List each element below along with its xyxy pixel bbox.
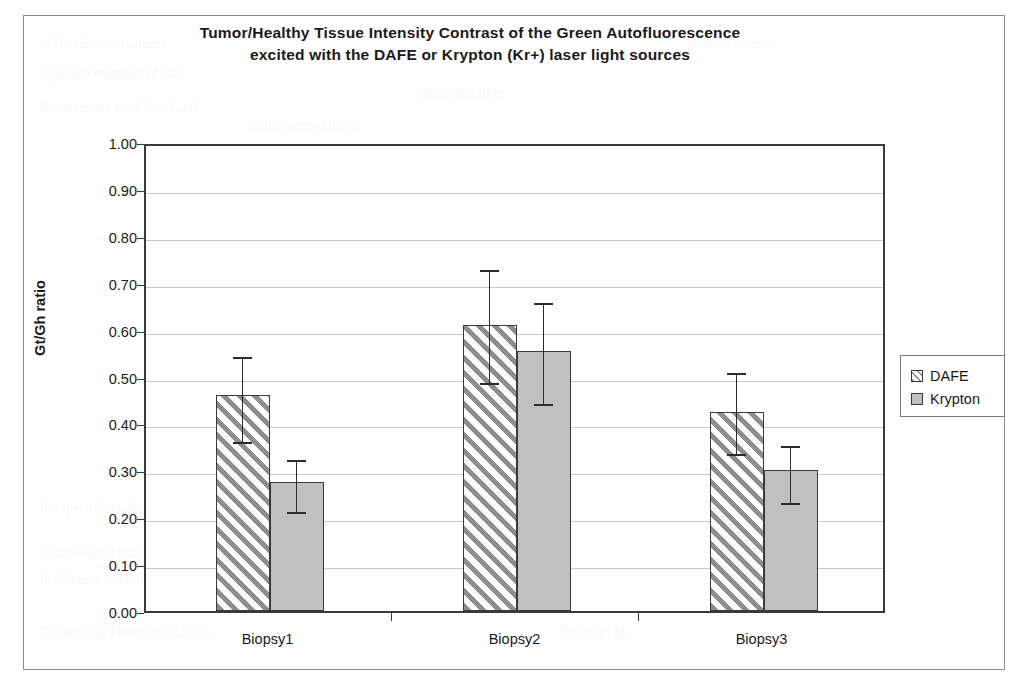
error-bar-cap-bottom [534, 404, 553, 406]
y-axis-tick-mark [137, 519, 144, 520]
x-axis-tick-mark [638, 613, 639, 621]
y-axis-tick-mark [137, 566, 144, 567]
chart-legend: DAFEKrypton [900, 355, 1005, 417]
error-bar-cap-bottom [727, 454, 746, 456]
y-axis-tick-label: 0.10 [75, 558, 137, 574]
x-axis-tick-label: Biopsy1 [242, 631, 294, 647]
error-bar-krypton-biopsy3 [764, 446, 818, 505]
error-bar-cap-bottom [781, 503, 800, 505]
gridline [146, 193, 883, 194]
y-axis-tick-mark [137, 191, 144, 192]
chart-title: Tumor/Healthy Tissue Intensity Contrast … [120, 22, 820, 67]
error-bar-dafe-biopsy2 [463, 270, 517, 385]
y-axis-tick-label: 0.80 [75, 230, 137, 246]
error-bar-krypton-biopsy2 [517, 303, 571, 406]
error-bar-stem [489, 270, 491, 385]
y-axis-tick-mark [137, 332, 144, 333]
gridline [146, 240, 883, 241]
y-axis-tick-mark [137, 144, 144, 145]
error-bar-cap-bottom [480, 383, 499, 385]
x-axis: Biopsy1Biopsy2Biopsy3 [144, 613, 885, 657]
y-axis-tick-mark [137, 285, 144, 286]
x-axis-tick-mark [391, 613, 392, 621]
y-axis-tick-label: 0.20 [75, 511, 137, 527]
error-bar-dafe-biopsy3 [710, 373, 764, 455]
error-bar-stem [543, 303, 545, 406]
error-bar-stem [296, 460, 298, 514]
legend-item-krypton[interactable]: Krypton [911, 391, 996, 407]
error-bar-stem [790, 446, 792, 505]
y-axis-tick-label: 0.70 [75, 277, 137, 293]
x-axis-tick-label: Biopsy2 [489, 631, 541, 647]
y-axis-tick-label: 0.60 [75, 324, 137, 340]
error-bar-cap-bottom [233, 442, 252, 444]
legend-swatch-icon [911, 393, 923, 405]
error-bar-stem [242, 357, 244, 444]
legend-item-label: DAFE [930, 368, 969, 384]
y-axis-tick-label: 0.00 [75, 605, 137, 621]
y-axis-tick-mark [137, 613, 144, 614]
y-axis-title: Gt/Gh ratio [32, 238, 48, 398]
y-axis-tick-label: 1.00 [75, 136, 137, 152]
chart-title-line-2: excited with the DAFE or Krypton (Kr+) l… [120, 44, 820, 66]
y-axis-tick-label: 0.50 [75, 371, 137, 387]
x-axis-tick-label: Biopsy3 [736, 631, 788, 647]
chart-title-line-1: Tumor/Healthy Tissue Intensity Contrast … [120, 22, 820, 44]
legend-item-label: Krypton [930, 391, 980, 407]
y-axis-tick-label: 0.30 [75, 464, 137, 480]
error-bar-cap-bottom [287, 512, 306, 514]
y-axis-tick-label: 0.90 [75, 183, 137, 199]
y-axis-tick-label: 0.40 [75, 417, 137, 433]
legend-item-dafe[interactable]: DAFE [911, 368, 996, 384]
y-axis-tick-mark [137, 425, 144, 426]
y-axis-tick-mark [137, 472, 144, 473]
legend-swatch-icon [911, 370, 923, 382]
error-bar-krypton-biopsy1 [270, 460, 324, 514]
error-bar-stem [736, 373, 738, 455]
y-axis-tick-mark [137, 238, 144, 239]
plot-area [144, 144, 885, 613]
y-axis: 1.000.900.800.700.600.500.400.300.200.10… [66, 144, 137, 613]
y-axis-tick-mark [137, 379, 144, 380]
error-bar-dafe-biopsy1 [216, 357, 270, 444]
